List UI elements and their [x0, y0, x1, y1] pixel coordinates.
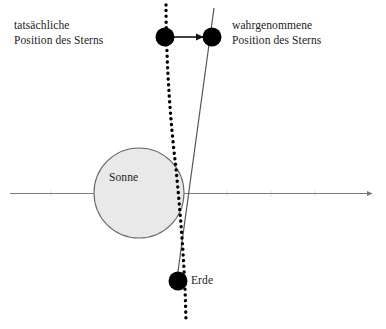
apparent-star-label: wahrgenommene Position des Sterns: [232, 18, 321, 48]
earth-dot: [169, 272, 188, 291]
light-deflection-diagram: tatsächliche Position des Sterns wahrgen…: [0, 0, 386, 329]
earth-label: Erde: [191, 273, 213, 288]
sun-circle: [94, 148, 184, 238]
apparent-star-label-line1: wahrgenommene: [232, 18, 321, 33]
apparent-star-dot: [203, 28, 222, 47]
apparent-star-label-line2: Position des Sterns: [232, 33, 321, 48]
horizontal-axis: [10, 191, 372, 197]
sun-label: Sonne: [109, 170, 138, 185]
actual-star-dot: [156, 28, 175, 47]
actual-star-label-line2: Position des Sterns: [14, 33, 103, 48]
actual-star-label-line1: tatsächliche: [14, 18, 103, 33]
actual-star-label: tatsächliche Position des Sterns: [14, 18, 103, 48]
